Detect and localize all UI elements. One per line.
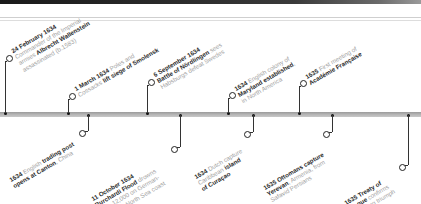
event-marker-ring-icon [171,146,178,153]
timeline-axis [0,112,421,117]
event-marker-ring-icon [399,164,406,171]
connector-line [408,115,409,165]
connector-line [253,115,254,132]
event-label: 1634 English colony ofMaryland establish… [233,54,300,105]
event-marker-ring-icon [244,131,251,138]
connector-line [5,61,6,113]
event-label: 1635 Ottomans captureYerevan, Armenia, f… [262,151,332,204]
connector-line [332,115,333,132]
connector-line [228,98,229,113]
event-label-line: 1 March 1634 Poles and [73,40,156,92]
event-marker-ring-icon [229,92,236,99]
event-marker-ring-icon [300,80,307,87]
event-label: 6 September 1634Battle of Nördlingen see… [152,35,227,91]
event-marker-ring-icon [69,93,76,100]
event-marker-ring-icon [148,79,155,86]
connector-line [88,115,89,131]
top-image-strip [0,0,421,4]
event-marker-ring-icon [79,130,86,137]
event-label: 1635 First meeting ofAcadémie Française [304,44,363,86]
connector-line [299,86,300,113]
event-marker-ring-icon [6,55,13,62]
connector-line [180,115,181,147]
event-marker-ring-icon [323,131,330,138]
event-label-line: 1634 English trading post [8,140,75,183]
connector-line [147,85,148,113]
event-label: 1634 Dutch captureCaribbean islandof Cur… [193,147,251,193]
event-label: 11 October 1634Burchardi Flood drownsup … [90,160,166,204]
event-label: 1634 English trading postopens at Canton… [8,140,79,189]
event-label: 1635 Treaty ofPrague confirmsHabsburg tr… [343,175,400,204]
connector-line [68,99,69,113]
